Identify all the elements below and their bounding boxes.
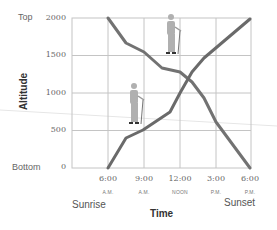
xtick-9am: 9:00 [127,174,161,183]
hiker-icon-lower [129,83,144,124]
ytick-1500: 1500 [36,50,66,59]
ytick-2000: 2000 [36,13,66,22]
ytick-500: 500 [36,125,66,134]
hiker-icon-upper [166,14,181,54]
xtick-6am: 6:00 [91,174,125,183]
x-axis-title: Time [150,208,173,219]
xtick-3pm-period: P.M. [199,189,233,195]
y-axis-title: Altitude [18,67,29,117]
xtick-3pm: 3:00 [199,174,233,183]
sunrise-label: Sunrise [72,199,106,210]
ytick-0: 0 [36,162,66,171]
chart-plot [0,0,277,230]
xtick-6am-period: A.M. [91,189,125,195]
xtick-noon-period: NOON [163,189,197,195]
xtick-noon: 12:00 [163,174,197,183]
xtick-6pm: 6:00 [233,174,267,183]
sunset-label: Sunset [224,197,255,208]
xtick-9am-period: A.M. [127,189,161,195]
top-label: Top [18,12,33,22]
ytick-1000: 1000 [36,88,66,97]
xtick-6pm-period: P.M. [233,189,267,195]
